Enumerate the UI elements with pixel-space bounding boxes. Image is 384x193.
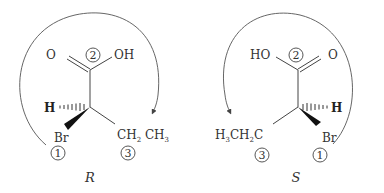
carbonyl-oxygen-label: O: [46, 48, 56, 62]
diagram-canvas: O OH H Br CH2 CH3 2 1 3 R: [0, 0, 384, 193]
bromine-label: Br: [54, 131, 69, 145]
rotation-arc-counterclockwise: [223, 13, 352, 144]
hydrogen-label: H: [44, 101, 55, 115]
priority-3-badge: 3: [255, 148, 269, 162]
configuration-label-r: R: [84, 170, 95, 185]
priority-1-badge: 1: [313, 148, 327, 162]
priority-2-badge: 2: [289, 48, 303, 62]
c-ethyl-bond: [273, 107, 298, 124]
svg-text:1: 1: [317, 149, 324, 162]
hashed-wedge-h: [303, 103, 327, 111]
rotation-arc-clockwise: [20, 13, 159, 145]
priority-3-badge: 3: [121, 146, 135, 160]
hashed-wedge-h: [60, 103, 84, 111]
molecule-s: HO O H Br H3CH2C 2 3 1 S: [215, 13, 352, 185]
ethyl-label: CH2 CH3: [117, 128, 169, 144]
hydroxyl-label: OH: [114, 48, 134, 62]
svg-text:3: 3: [259, 149, 266, 162]
svg-text:3: 3: [125, 147, 132, 160]
c-ethyl-bond: [90, 107, 115, 124]
ethyl-label: H3CH2C: [215, 128, 263, 144]
solid-wedge-br: [64, 107, 90, 130]
svg-text:2: 2: [293, 49, 300, 62]
bromine-label: Br: [322, 131, 337, 145]
svg-text:1: 1: [55, 147, 62, 160]
molecule-r: O OH H Br CH2 CH3 2 1 3 R: [20, 13, 169, 185]
svg-text:2: 2: [90, 49, 97, 62]
hydrogen-label: H: [331, 101, 342, 115]
carbonyl-oxygen-label: O: [328, 48, 338, 62]
priority-2-badge: 2: [86, 48, 100, 62]
hydroxyl-label: HO: [250, 48, 270, 62]
solid-wedge-br: [298, 107, 321, 126]
priority-1-badge: 1: [51, 146, 65, 160]
configuration-label-s: S: [292, 170, 301, 185]
